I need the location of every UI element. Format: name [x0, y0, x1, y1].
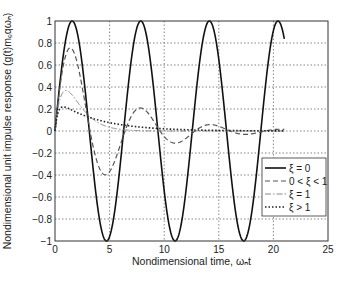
x-tick-label: 15 [213, 244, 225, 255]
x-tick-label: 20 [268, 244, 280, 255]
series-line [55, 48, 284, 175]
legend-entry: ξ > 1 [289, 202, 311, 214]
plot-curves [55, 21, 284, 241]
legend-entry: 0 < ξ < 1 [289, 176, 328, 188]
legend-entry: ξ = 1 [289, 189, 311, 201]
y-tick-label: 0.6 [38, 60, 52, 71]
x-tick-label: 0 [52, 244, 58, 255]
x-tick-label: 5 [107, 244, 113, 255]
y-tick-label: −0.4 [32, 170, 52, 181]
y-tick-label: 0.8 [38, 38, 52, 49]
y-tick-label: 0.4 [38, 82, 52, 93]
y-tick-label: 0 [46, 126, 52, 137]
y-tick-label: −0.8 [32, 214, 52, 225]
legend: ξ = 00 < ξ < 1ξ = 1ξ > 1 [262, 158, 328, 216]
x-tick-label: 25 [322, 244, 334, 255]
x-axis-label: Nondimensional time, ωₙt [132, 255, 251, 267]
y-tick-label: 0.2 [38, 104, 52, 115]
y-tick-label: −0.2 [32, 148, 52, 159]
y-tick-label: −1 [41, 236, 53, 247]
legend-entry: ξ = 0 [289, 163, 311, 175]
y-axis-label: Nondimensional unit impulse response (g(… [1, 13, 13, 250]
y-tick-label: −0.6 [32, 192, 52, 203]
impulse-response-chart: 0510152025−1−0.8−0.6−0.4−0.200.20.40.60.… [0, 0, 347, 281]
y-tick-label: 1 [46, 16, 52, 27]
x-tick-label: 10 [159, 244, 171, 255]
axis-ticks: 0510152025−1−0.8−0.6−0.4−0.200.20.40.60.… [32, 16, 334, 256]
